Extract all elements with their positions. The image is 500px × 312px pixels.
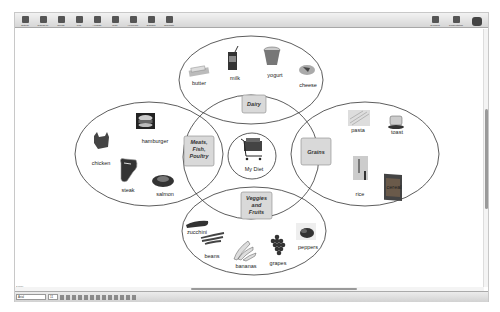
- svg-text:milk: milk: [230, 75, 240, 81]
- yogurt-icon: [264, 47, 280, 65]
- symbols-button[interactable]: Symbols: [427, 12, 443, 27]
- my-diet-label: My Diet: [245, 166, 264, 172]
- transfer-button[interactable]: Transfer: [143, 12, 159, 27]
- create-button[interactable]: Create: [53, 12, 69, 27]
- italic-button[interactable]: [66, 295, 70, 300]
- template-button[interactable]: Template: [161, 12, 177, 27]
- hyperlink-button[interactable]: Hyperlink: [125, 12, 141, 27]
- diagram-canvas[interactable]: Dairy Meats, Fish, Poultry Grains Veggie…: [15, 29, 484, 287]
- vertical-scrollbar[interactable]: [483, 29, 488, 287]
- svg-text:pasta: pasta: [351, 127, 365, 133]
- dairy-label: Dairy: [247, 101, 262, 107]
- item-toast[interactable]: toast: [388, 116, 404, 135]
- outline-icon: [22, 16, 29, 23]
- create-icon: [58, 16, 65, 23]
- link-button[interactable]: Link: [71, 12, 87, 27]
- peppers-icon: [296, 223, 316, 240]
- svg-text:Veggies: Veggies: [246, 195, 267, 201]
- my-diet-node[interactable]: My Diet: [241, 138, 264, 172]
- symbols-icon: [432, 16, 439, 23]
- arrange-button[interactable]: Arrange: [89, 12, 105, 27]
- note-button[interactable]: Note: [107, 12, 123, 27]
- item-hamburger[interactable]: hamburger: [136, 113, 168, 144]
- svg-text:peppers: peppers: [298, 244, 318, 250]
- item-rice[interactable]: rice: [353, 156, 368, 197]
- formatting-toolbar: Arial 11: [15, 291, 488, 302]
- rapidfire-button[interactable]: RapidFire: [35, 12, 51, 27]
- svg-text:grapes: grapes: [270, 260, 287, 266]
- toaster-icon: [388, 116, 404, 129]
- veggies-box[interactable]: Veggies and Fruits: [241, 192, 272, 219]
- svg-text:chicken: chicken: [92, 160, 111, 166]
- item-salmon[interactable]: salmon: [152, 175, 174, 197]
- svg-text:bananas: bananas: [235, 263, 256, 269]
- item-milk[interactable]: milk: [228, 46, 240, 81]
- pasta-icon: [348, 110, 370, 126]
- item-butter[interactable]: butter: [189, 66, 210, 86]
- align-left-button[interactable]: [84, 295, 88, 300]
- shadow-button[interactable]: [126, 295, 130, 300]
- item-peppers[interactable]: peppers: [296, 223, 318, 250]
- svg-text:hamburger: hamburger: [142, 138, 169, 144]
- shopping-cart-icon: [241, 138, 262, 160]
- font-select[interactable]: Arial: [16, 294, 46, 300]
- grains-box[interactable]: Grains: [301, 138, 331, 165]
- item-pasta[interactable]: pasta: [348, 110, 370, 133]
- hamburger-icon: [136, 113, 155, 129]
- font-size-select[interactable]: 11: [48, 294, 58, 300]
- item-grapes[interactable]: grapes: [270, 235, 287, 266]
- svg-text:and: and: [252, 202, 262, 208]
- link-icon: [76, 16, 83, 23]
- line-color-button[interactable]: [102, 295, 106, 300]
- item-cereal[interactable]: cereal: [384, 174, 402, 201]
- svg-text:cereal: cereal: [387, 184, 402, 190]
- svg-text:yogurt: yogurt: [267, 72, 283, 78]
- item-bananas[interactable]: bananas: [234, 241, 257, 269]
- link-style-button[interactable]: [114, 295, 118, 300]
- butter-icon: [189, 66, 210, 77]
- venn-diagram: Dairy Meats, Fish, Poultry Grains Veggie…: [15, 29, 484, 287]
- svg-text:beans: beans: [205, 253, 220, 259]
- inspiration-logo-icon: [472, 17, 482, 26]
- inspiration-window: Outline RapidFire Create Link Arrange No…: [14, 12, 489, 302]
- item-cheese[interactable]: cheese: [299, 65, 317, 88]
- svg-text:cheese: cheese: [299, 82, 317, 88]
- presentation-icon: [453, 16, 460, 23]
- svg-text:Poultry: Poultry: [190, 153, 210, 159]
- item-chicken[interactable]: chicken: [92, 132, 111, 166]
- svg-text:Meats,: Meats,: [190, 139, 208, 145]
- salmon-icon: [152, 175, 174, 187]
- outline-button[interactable]: Outline: [17, 12, 33, 27]
- text-color-button[interactable]: [78, 295, 82, 300]
- dairy-box[interactable]: Dairy: [242, 95, 266, 113]
- align-center-button[interactable]: [90, 295, 94, 300]
- svg-text:butter: butter: [192, 80, 206, 86]
- svg-text:toast: toast: [391, 129, 403, 135]
- item-beans[interactable]: beans: [201, 233, 224, 259]
- item-yogurt[interactable]: yogurt: [264, 47, 283, 78]
- arrow-button[interactable]: [120, 295, 124, 300]
- horizontal-scroll-thumb[interactable]: [191, 288, 357, 290]
- underline-button[interactable]: [72, 295, 76, 300]
- vertical-scroll-thumb[interactable]: [485, 109, 488, 209]
- rice-icon: [353, 156, 368, 180]
- presentation-button[interactable]: Presentation: [448, 12, 464, 27]
- svg-text:rice: rice: [356, 191, 365, 197]
- steak-icon: [121, 159, 138, 182]
- grapes-icon: [271, 235, 286, 256]
- bananas-icon: [234, 241, 256, 261]
- spacing-button[interactable]: [132, 295, 136, 300]
- svg-text:salmon: salmon: [156, 191, 174, 197]
- svg-text:steak: steak: [121, 187, 134, 193]
- shape-button[interactable]: [108, 295, 112, 300]
- bold-button[interactable]: [60, 295, 64, 300]
- item-zucchini[interactable]: zucchini: [186, 221, 208, 235]
- hyperlink-icon: [130, 16, 137, 23]
- meats-box[interactable]: Meats, Fish, Poultry: [184, 136, 214, 166]
- fill-color-button[interactable]: [96, 295, 100, 300]
- item-steak[interactable]: steak: [121, 159, 138, 194]
- note-icon: [112, 16, 119, 23]
- arrange-icon: [94, 16, 101, 23]
- svg-text:Fish,: Fish,: [193, 146, 206, 152]
- transfer-icon: [148, 16, 155, 23]
